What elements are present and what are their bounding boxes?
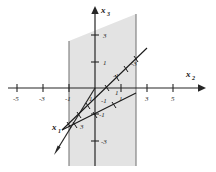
x2-axis-arrowhead xyxy=(198,84,206,91)
x3-tick-label--3: -3 xyxy=(101,138,107,146)
origin-tick-label-1: 1 xyxy=(89,95,93,103)
svg-text:x: x xyxy=(185,69,191,79)
x2-axis-label: x 2 xyxy=(185,69,195,81)
figure-canvas: x 2 x 3 x 1 -5 -3 -1 1 3 5 3 1 -1 -3 -3 … xyxy=(0,0,216,172)
x1-axis-arrowhead xyxy=(54,146,61,155)
x3-axis-label: x 3 xyxy=(100,5,110,17)
coordinate-system-diagram: x 2 x 3 x 1 -5 -3 -1 1 3 5 3 1 -1 -3 -3 … xyxy=(0,0,216,172)
svg-text:1: 1 xyxy=(58,128,61,134)
x2-tick-label--1: -1 xyxy=(65,95,71,103)
x2-tick-label-3: 3 xyxy=(144,95,149,103)
x2-tick-label-5: 5 xyxy=(171,95,175,103)
svg-text:2: 2 xyxy=(191,75,195,81)
x2-tick-label-1: 1 xyxy=(119,95,123,103)
diagonal-label-2: 1 xyxy=(115,89,119,97)
diagonal-label-1: -1 xyxy=(113,72,119,80)
diagonal-label-4: 3 xyxy=(79,123,84,131)
svg-text:3: 3 xyxy=(106,11,110,17)
x3-tick-label--1: -1 xyxy=(99,111,105,119)
diagonal-label-0: -3 xyxy=(131,60,137,68)
svg-text:x: x xyxy=(51,122,57,132)
x2-tick-label--3: -3 xyxy=(39,95,45,103)
svg-text:x: x xyxy=(100,5,106,15)
x3-tick-label-3: 3 xyxy=(102,32,107,40)
x3-tick-label-1: 1 xyxy=(103,59,107,67)
x2-tick-label--5: -5 xyxy=(13,95,19,103)
diagonal-label-3: -1 xyxy=(101,97,107,105)
x1-axis-label: x 1 xyxy=(51,122,61,134)
x3-axis-arrowhead xyxy=(91,6,98,14)
